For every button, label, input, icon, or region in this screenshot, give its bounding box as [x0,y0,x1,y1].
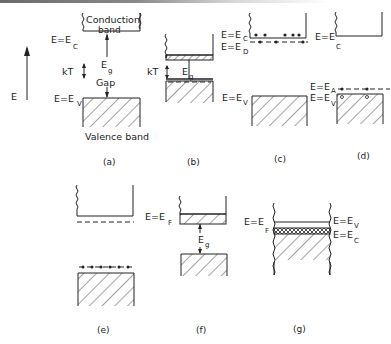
ed-label: E=E [221,41,241,52]
donor-filled-band [166,55,213,60]
ev-subscript: V [331,100,336,108]
caption-f: (f) [196,325,206,335]
ef-label: E=E [244,216,264,227]
ev-label: E=E [310,92,330,103]
ev-subscript: V [77,100,82,108]
eg-label: E [182,66,188,77]
valence-band [166,81,213,103]
eg-label: E [198,234,204,245]
ef-subscript: F [265,227,269,235]
band-diagram: E Conduction band E=E C E g Gap kT E=E V… [0,0,391,344]
ev-subscript: V [243,99,248,107]
ev-subscript: V [354,222,359,230]
ec-subscript: C [73,43,78,51]
caption-a: (a) [103,157,116,167]
eg-subscript: g [189,73,193,81]
overlap-band [274,228,330,234]
caption-g: (g) [293,324,306,334]
caption-c: (c) [274,154,286,164]
energy-axis: E [11,46,30,102]
ev-label: E=E [333,215,353,226]
conduction-label-line1: Conduction [86,14,140,25]
ea-label: E=E [310,81,330,92]
valence-band [181,254,227,276]
valence-band [337,94,383,124]
ec-label: E=E [333,229,353,240]
ec-subscript: C [354,237,359,245]
eg-subscript: g [205,241,209,249]
ev-label: E=E [54,93,74,104]
panel-g: E=E F E=E V E=E C (g) [244,203,359,334]
valence-band [83,98,140,127]
eg-subscript: g [108,67,112,75]
panel-d: E=E C E=E A E=E V (d) [310,12,390,161]
ec-label: E=E [51,34,71,45]
panel-f: E=E F E g (f) [145,196,227,335]
valence-label: Valence band [85,131,149,142]
ev-label: E=E [222,92,242,103]
electron-dots [254,33,300,36]
ed-subscript: D [243,48,248,56]
panel-c: E=E C E=E D E=E V (c) [221,13,308,164]
ea-subscript: A [331,87,336,95]
ef-subscript: F [168,219,172,227]
valence-band [252,96,307,126]
filled-band [274,234,330,260]
ec-label: E=E [315,31,335,42]
conduction-band-outline [165,34,213,58]
donor-dots [258,40,304,43]
panel-b: kT E g (b) [147,34,213,167]
eg-label: E [101,59,107,70]
conduction-band-outline [335,12,382,36]
conduction-label-line2: band [98,25,121,35]
caption-e: (e) [97,325,110,335]
filled-band [180,214,226,224]
arrow-up-icon [24,46,30,56]
caption-d: (d) [357,151,370,161]
conduction-band-outline [249,13,306,38]
caption-b: (b) [187,157,200,167]
gap-label: Gap [96,77,115,88]
valence-band [78,273,134,306]
ec-subscript: C [243,35,248,43]
ec-subscript: C [336,43,341,51]
kt-label: kT [147,66,159,77]
energy-axis-label: E [11,91,17,102]
ec-label: E=E [221,29,241,40]
kt-label: kT [62,66,74,77]
arrow-down-icon [105,92,109,98]
panel-a: Conduction band E=E C E g Gap kT E=E V V… [51,13,149,167]
conduction-band-outline [76,185,133,216]
conduction-band-outline [179,196,226,214]
panel-e: (e) [76,185,134,335]
ef-label: E=E [145,211,165,222]
